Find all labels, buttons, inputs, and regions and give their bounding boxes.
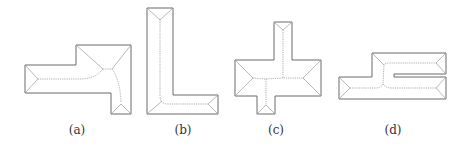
panel-d-diagram (339, 53, 446, 99)
panel-b-diagram (147, 8, 218, 114)
panel-d-label: (d) (384, 123, 401, 137)
panel-c-label: (c) (268, 123, 284, 137)
panel-c-diagram (235, 22, 321, 114)
panel-a-diagram (25, 45, 131, 114)
panel-a-label: (a) (69, 123, 86, 137)
panel-b-label: (b) (174, 123, 191, 137)
